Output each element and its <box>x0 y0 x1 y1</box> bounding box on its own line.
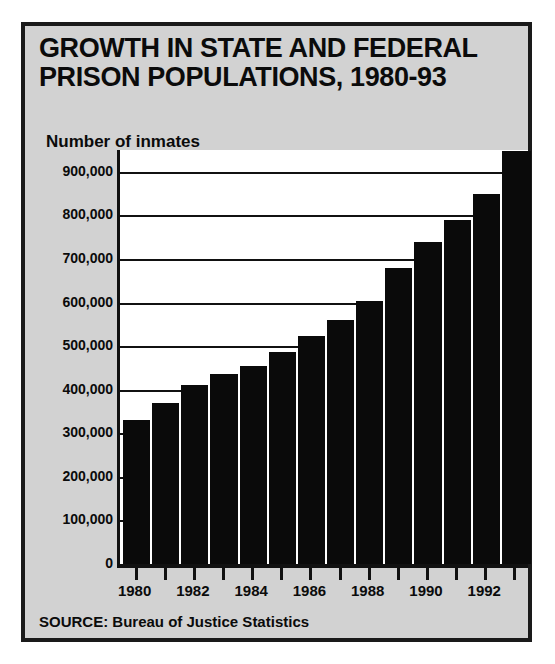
y-tick-label: 800,000 <box>37 206 113 222</box>
x-tick <box>513 568 516 580</box>
bar <box>269 352 298 564</box>
y-tick-label: 300,000 <box>37 424 113 440</box>
chart-figure: GROWTH IN STATE AND FEDERAL PRISON POPUL… <box>21 22 532 642</box>
x-axis-ticks <box>117 568 528 580</box>
y-axis-tick-labels: 0100,000200,000300,000400,000500,000600,… <box>33 150 113 564</box>
source-note: SOURCE: Bureau of Justice Statistics <box>39 613 309 630</box>
chart-title-line-2: PRISON POPULATIONS, 1980-93 <box>39 63 515 92</box>
x-tick <box>339 568 342 580</box>
y-tick-label: 0 <box>37 555 113 571</box>
y-tick-label: 500,000 <box>37 337 113 353</box>
chart-title: GROWTH IN STATE AND FEDERAL PRISON POPUL… <box>39 34 515 92</box>
x-tick-label: 1988 <box>351 582 384 599</box>
bar <box>385 268 414 564</box>
x-tick <box>309 568 312 580</box>
x-tick <box>426 568 429 580</box>
y-tick-label: 900,000 <box>37 163 113 179</box>
x-tick <box>484 568 487 580</box>
x-tick-label: 1984 <box>234 582 267 599</box>
bar <box>414 242 443 564</box>
y-axis-label: Number of inmates <box>46 132 200 152</box>
y-tick-label: 600,000 <box>37 294 113 310</box>
x-tick <box>135 568 138 580</box>
x-tick-label: 1982 <box>176 582 209 599</box>
x-tick <box>280 568 283 580</box>
x-tick <box>397 568 400 580</box>
bar <box>473 194 502 564</box>
x-tick-label: 1990 <box>409 582 442 599</box>
bar <box>298 336 327 564</box>
x-tick <box>193 568 196 580</box>
x-tick <box>368 568 371 580</box>
bar <box>327 320 356 564</box>
x-tick-label: 1986 <box>293 582 326 599</box>
x-tick-label: 1980 <box>118 582 151 599</box>
bar <box>240 366 269 564</box>
plot-area <box>117 150 528 564</box>
bar <box>356 301 385 564</box>
bar <box>152 403 181 564</box>
y-tick-label: 100,000 <box>37 511 113 527</box>
chart-title-line-1: GROWTH IN STATE AND FEDERAL <box>39 34 515 63</box>
y-tick-label: 400,000 <box>37 381 113 397</box>
y-tick-label: 200,000 <box>37 468 113 484</box>
bar <box>444 220 473 564</box>
bar <box>210 374 239 564</box>
bar <box>502 151 531 564</box>
bar <box>123 420 152 564</box>
bar <box>181 385 210 564</box>
x-tick <box>251 568 254 580</box>
x-tick <box>164 568 167 580</box>
y-tick-label: 700,000 <box>37 250 113 266</box>
x-tick <box>455 568 458 580</box>
x-axis-tick-labels: 1980198219841986198819901992 <box>117 582 528 606</box>
x-tick <box>222 568 225 580</box>
x-tick-label: 1992 <box>468 582 501 599</box>
bar-series <box>123 150 528 564</box>
